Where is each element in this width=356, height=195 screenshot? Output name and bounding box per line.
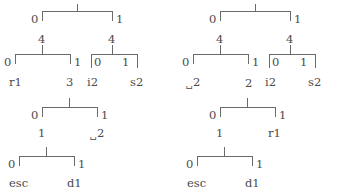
left-leaf-space2-digit: 2 <box>97 126 104 140</box>
left-r1-edge-label-1: 1 <box>122 57 129 69</box>
right-root-edge-label-1: 1 <box>294 14 301 26</box>
left-leaf-space2: ␣2 <box>90 128 104 140</box>
left-l1-edge-label-0: 0 <box>4 57 11 69</box>
right-r1-edge-label-1: 1 <box>300 57 307 69</box>
right-leaf-1: 1 <box>216 128 223 140</box>
right-leaf-space2: ␣2 <box>186 77 200 89</box>
right-bot-edge-label-0: 0 <box>186 159 193 171</box>
right-leaf-r1: r1 <box>268 128 281 140</box>
right-mid-edge-label-1: 1 <box>279 110 286 122</box>
right-l1-edge-label-1: 1 <box>252 57 259 69</box>
left-l1-edge-label-1: 1 <box>74 57 81 69</box>
left-bot-edge-label-1: 1 <box>78 159 85 171</box>
right-leaf-2: 2 <box>245 78 252 90</box>
right-root-edge-label-0: 0 <box>209 14 216 26</box>
right-leaf-i2: i2 <box>265 77 276 89</box>
right-mid-edge-label-0: 0 <box>209 110 216 122</box>
left-r1-edge-label-0: 0 <box>94 57 101 69</box>
right-r1-edge-label-0: 0 <box>272 57 279 69</box>
left-leaf-d1: d1 <box>67 178 82 190</box>
left-leaf-r1: r1 <box>9 77 22 89</box>
right-leaf-s2: s2 <box>308 77 321 89</box>
left-leaf-esc: esc <box>9 178 28 190</box>
space-mark-icon: ␣ <box>186 79 193 89</box>
left-leaf-s2: s2 <box>130 77 143 89</box>
left-root-edge-label-1: 1 <box>116 14 123 26</box>
space-mark-icon: ␣ <box>90 130 97 140</box>
left-leaf-3: 3 <box>66 77 73 89</box>
left-bot-edge-label-0: 0 <box>8 159 15 171</box>
huffman-trees-figure: 0 1 4 4 0 1 r1 3 0 1 i2 s2 0 1 1 ␣2 0 1 … <box>0 0 356 195</box>
left-node-weight-right: 4 <box>108 34 115 46</box>
tree-edges-canvas <box>0 0 356 195</box>
left-root-edge-label-0: 0 <box>31 14 38 26</box>
left-mid-edge-label-1: 1 <box>101 110 108 122</box>
left-leaf-1: 1 <box>38 128 45 140</box>
left-leaf-i2: i2 <box>87 77 98 89</box>
right-node-weight-left: 4 <box>216 34 223 46</box>
left-node-weight-left: 4 <box>38 34 45 46</box>
right-leaf-d1: d1 <box>245 178 260 190</box>
right-l1-edge-label-0: 0 <box>182 57 189 69</box>
right-leaf-space2-digit: 2 <box>193 75 200 89</box>
right-bot-edge-label-1: 1 <box>256 159 263 171</box>
right-leaf-esc: esc <box>187 178 206 190</box>
right-node-weight-right: 4 <box>286 34 293 46</box>
left-mid-edge-label-0: 0 <box>31 110 38 122</box>
